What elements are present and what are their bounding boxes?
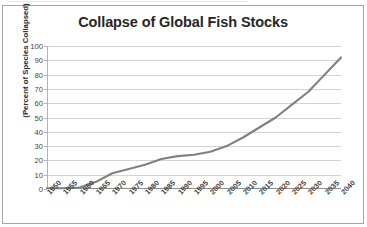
plot-area — [47, 46, 341, 189]
x-axis-tick-label: 2040 — [339, 178, 357, 196]
y-axis-tick-label: 30 — [35, 142, 43, 151]
y-axis-tick — [44, 175, 47, 176]
y-axis-tick-label: 0 — [39, 185, 43, 194]
chart-screenshot: Collapse of Global Fish Stocks (Percent … — [0, 0, 367, 227]
y-axis-tick-label: 10 — [35, 170, 43, 179]
y-axis-tick — [44, 75, 47, 76]
y-axis-tick-labels: 0102030405060708090100 — [15, 46, 43, 189]
y-axis-tick — [44, 103, 47, 104]
top-edge-artifact — [0, 0, 367, 4]
y-axis-tick — [44, 160, 47, 161]
y-axis-tick-label: 50 — [35, 113, 43, 122]
y-axis-tick-label: 60 — [35, 99, 43, 108]
y-axis-tick — [44, 118, 47, 119]
y-axis-tick-label: 90 — [35, 56, 43, 65]
chart-container: Collapse of Global Fish Stocks (Percent … — [2, 5, 364, 224]
y-axis-tick-label: 80 — [35, 70, 43, 79]
y-axis-tick-label: 70 — [35, 84, 43, 93]
chart-title: Collapse of Global Fish Stocks — [3, 14, 363, 30]
y-axis-tick — [44, 46, 47, 47]
y-axis-tick-label: 20 — [35, 156, 43, 165]
y-axis-tick — [44, 89, 47, 90]
y-axis-tick — [44, 132, 47, 133]
y-axis-tick-label: 100 — [30, 42, 43, 51]
y-axis-tick — [44, 60, 47, 61]
data-series-line — [47, 46, 341, 189]
y-axis-tick — [44, 146, 47, 147]
y-axis-tick-label: 40 — [35, 127, 43, 136]
x-axis-tick-labels: 1950195519601965197019751980198519901995… — [47, 190, 341, 227]
